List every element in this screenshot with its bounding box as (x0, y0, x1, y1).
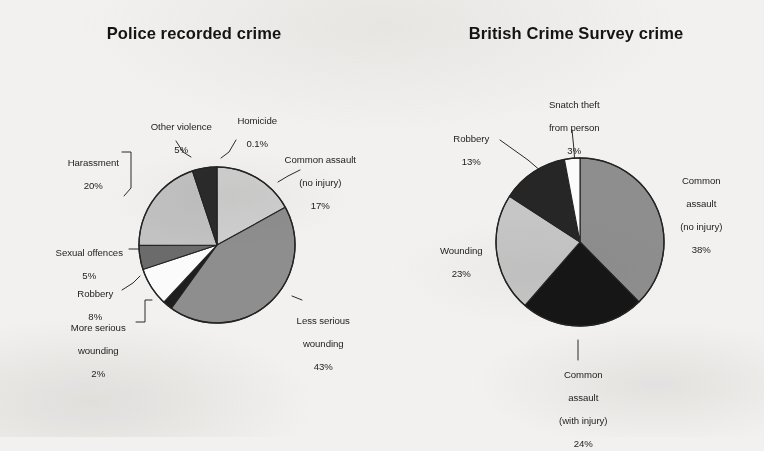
slice-label-snatch-theft-from-person: Snatch theft from person 3% (514, 88, 624, 168)
chart-title-british-crime-survey-crime: British Crime Survey crime (388, 24, 764, 43)
slice-label-wounding: Wounding 23% (412, 234, 500, 291)
slice-label-other-violence: Other violence 5% (126, 110, 226, 167)
slice-label-less-serious-wounding: Less serious wounding 43% (268, 304, 368, 384)
slice-label-harassment: Harassment 20% (50, 146, 126, 203)
chart-title-police-recorded-crime: Police recorded crime (0, 24, 388, 43)
slice-label-more-serious-wounding: More serious wounding 2% (48, 311, 138, 391)
chart-panel-british-crime-survey-crime: British Crime Survey crime Snatch theft … (388, 0, 764, 437)
chart-panel-police-recorded-crime: Police recorded crime O (0, 0, 388, 437)
slice-label-common-assault-with-injury: Common assault (with injury) 24% (528, 358, 628, 451)
slice-label-common-assault-no-injury: Common assault (no injury) 38% (650, 164, 742, 267)
slice-label-common-assault-no-injury: Common assault (no injury) 17% (258, 143, 372, 223)
slice-label-robbery: Robbery 13% (428, 122, 504, 179)
